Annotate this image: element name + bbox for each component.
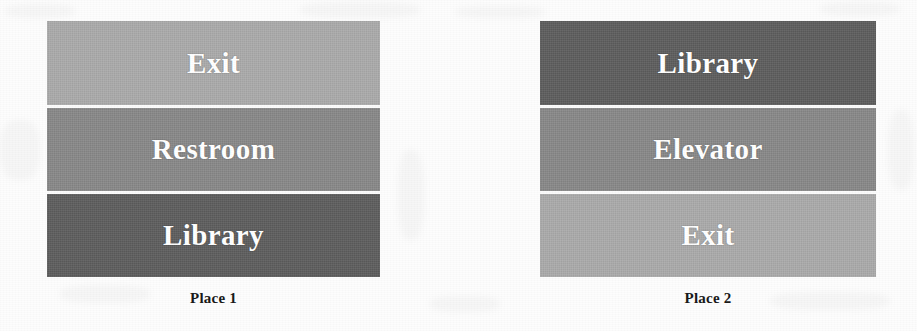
block-label: Library bbox=[163, 221, 264, 250]
block-stack: LibraryElevatorExit bbox=[540, 21, 876, 277]
block-label: Elevator bbox=[653, 135, 763, 164]
figure-canvas: ExitRestroomLibraryPlace 1LibraryElevato… bbox=[0, 0, 917, 331]
block-exit[interactable]: Exit bbox=[540, 191, 876, 277]
block-label: Exit bbox=[187, 49, 240, 78]
panel-place-2: LibraryElevatorExitPlace 2 bbox=[540, 21, 876, 316]
scan-artifact bbox=[398, 150, 424, 240]
scan-artifact bbox=[5, 4, 75, 18]
scan-artifact bbox=[888, 110, 914, 190]
block-label: Restroom bbox=[152, 135, 275, 164]
scan-artifact bbox=[430, 296, 500, 312]
block-library[interactable]: Library bbox=[47, 191, 380, 277]
block-stack: ExitRestroomLibrary bbox=[47, 21, 380, 277]
panel-caption: Place 2 bbox=[540, 290, 876, 307]
scan-artifact bbox=[0, 120, 40, 180]
panel-caption: Place 1 bbox=[47, 290, 380, 307]
block-exit[interactable]: Exit bbox=[47, 21, 380, 105]
scan-artifact bbox=[300, 2, 420, 18]
block-label: Library bbox=[657, 49, 758, 78]
scan-artifact bbox=[820, 2, 900, 16]
scan-artifact bbox=[455, 6, 545, 18]
block-library[interactable]: Library bbox=[540, 21, 876, 105]
block-elevator[interactable]: Elevator bbox=[540, 105, 876, 191]
block-restroom[interactable]: Restroom bbox=[47, 105, 380, 191]
panel-place-1: ExitRestroomLibraryPlace 1 bbox=[47, 21, 380, 316]
block-label: Exit bbox=[681, 221, 734, 250]
